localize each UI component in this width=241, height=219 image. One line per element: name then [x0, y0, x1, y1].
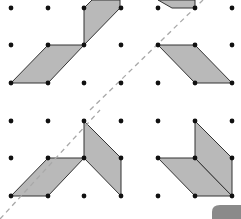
grid-dot	[9, 6, 14, 11]
reflection-dot-grid-diagram	[0, 0, 241, 219]
grid-dot	[156, 194, 161, 199]
grid-dot	[193, 156, 198, 161]
grid-dot	[46, 156, 51, 161]
grid-dot	[46, 194, 51, 199]
grid-dot	[46, 81, 51, 86]
grid-dot	[9, 194, 14, 199]
grid-dot	[193, 81, 198, 86]
grid-dot	[119, 194, 124, 199]
grid-dot	[119, 43, 124, 48]
grid-dot	[230, 6, 235, 11]
shapes-layer	[11, 0, 232, 196]
grid-dot	[119, 156, 124, 161]
grid-dot	[82, 81, 87, 86]
corner-tab-icon	[212, 205, 241, 219]
grid-dot	[9, 119, 14, 124]
top-right-upper-parallelogram	[158, 0, 195, 8]
grid-dot	[46, 6, 51, 11]
grid-dot	[230, 81, 235, 86]
grid-dot	[9, 43, 14, 48]
grid-dot	[230, 194, 235, 199]
grid-dot	[156, 156, 161, 161]
grid-dot	[82, 119, 87, 124]
grid-dot	[46, 43, 51, 48]
top-left-lower-parallelogram	[11, 45, 84, 83]
grid-dot	[119, 119, 124, 124]
grid-dot	[82, 6, 87, 11]
bottom-mirror-line	[0, 110, 100, 219]
grid-dot	[82, 156, 87, 161]
grid-dot	[230, 119, 235, 124]
bottom-left-vertical-parallelogram	[84, 121, 121, 196]
grid-dot	[156, 6, 161, 11]
grid-dot	[156, 81, 161, 86]
grid-dot	[82, 194, 87, 199]
grid-dot	[156, 43, 161, 48]
grid-dot	[119, 6, 124, 11]
grid-dot	[156, 119, 161, 124]
grid-dot	[193, 6, 198, 11]
grid-dot	[193, 119, 198, 124]
grid-dot	[46, 119, 51, 124]
top-right-lower-parallelogram	[158, 45, 232, 83]
bottom-left-horizontal-parallelogram	[11, 158, 84, 196]
grid-dot	[193, 43, 198, 48]
grid-dot	[119, 81, 124, 86]
grid-dot	[230, 156, 235, 161]
grid-dot	[82, 43, 87, 48]
grid-dot	[193, 194, 198, 199]
grid-dot	[230, 43, 235, 48]
grid-dot	[9, 81, 14, 86]
top-left-upper-parallelogram	[84, 0, 120, 45]
grid-dot	[9, 156, 14, 161]
